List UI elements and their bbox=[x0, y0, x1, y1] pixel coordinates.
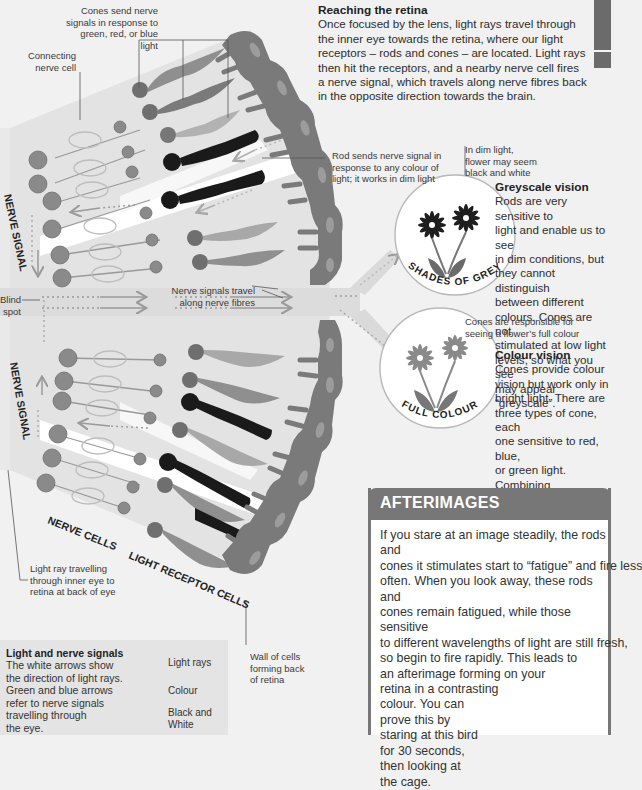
cones-label: Cones send nerve signals in response to … bbox=[64, 5, 158, 51]
legend-title: Light and nerve signals bbox=[6, 647, 96, 659]
reaching-retina-title: Reaching the retina bbox=[318, 3, 598, 17]
afterimages-title: AFTERIMAGES bbox=[380, 494, 500, 512]
legend-item-colour: Colour bbox=[168, 685, 197, 697]
reaching-retina-section: Reaching the retina Once focused by the … bbox=[318, 3, 598, 104]
legend-item-black-white: Black and White bbox=[168, 707, 212, 730]
afterimages-body: If you stare at an image steadily, the r… bbox=[380, 528, 608, 790]
reaching-retina-body: Once focused by the lens, light rays tra… bbox=[318, 17, 598, 103]
rod-label: Rod sends nerve signal in response to an… bbox=[332, 150, 441, 185]
wall-of-cells-label: Wall of cells forming back of retina bbox=[250, 651, 304, 686]
dim-light-label: In dim light, flower may seem black and … bbox=[465, 144, 537, 179]
light-ray-label: Light ray travelling through inner eye t… bbox=[30, 563, 116, 598]
nerve-signals-travel-label: Nerve signals travel along nerve fibres bbox=[170, 285, 255, 308]
legend-text: Light and nerve signals The white arrows… bbox=[6, 647, 96, 735]
nerve-cells-label: NERVE CELLS bbox=[46, 514, 118, 553]
blind-spot-label: Blind spot bbox=[0, 294, 21, 317]
connecting-nerve-cell-label: Connecting nerve cell bbox=[16, 50, 76, 73]
cones-full-colour-label: Cones are responsible for seeing a flowe… bbox=[465, 316, 579, 339]
colour-vision-title: Colour vision bbox=[495, 348, 611, 362]
legend-item-light-rays: Light rays bbox=[168, 657, 211, 669]
greyscale-vision-title: Greyscale vision bbox=[495, 180, 611, 194]
